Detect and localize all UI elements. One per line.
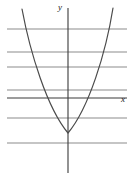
parabola-figure: y x xyxy=(0,0,133,180)
x-axis-label: x xyxy=(121,95,125,104)
gridline-group xyxy=(7,29,127,143)
plot-canvas xyxy=(0,0,133,180)
y-axis-label: y xyxy=(58,3,62,12)
